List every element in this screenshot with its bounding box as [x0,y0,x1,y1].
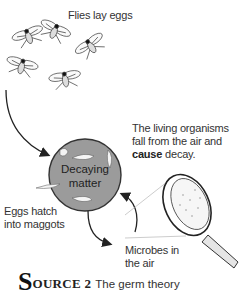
label-organisms: The living organisms fall from the air a… [132,122,229,161]
arrow-microbes-to-matter [122,194,137,232]
arrow-matter-to-microbes [88,211,110,244]
label-microbes: Microbes in the air [125,244,179,270]
caption-initial: S [18,267,32,292]
label-flies-lay-eggs: Flies lay eggs [68,9,132,22]
fly-icon [4,18,109,91]
caption-source-number: OURCE 2 [32,276,91,291]
label-decaying-matter: Decaying matter [55,162,115,190]
caption-title: The germ theory [95,278,179,290]
source-caption: SOURCE 2The germ theory [18,272,180,292]
arrow-flies-to-matter [6,90,48,155]
label-eggs-hatch: Eggs hatch into maggots [4,205,65,231]
